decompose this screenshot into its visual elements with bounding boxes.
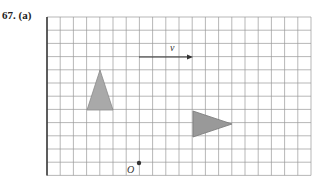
vector-label: v	[170, 42, 175, 53]
origin-label: O	[127, 164, 134, 175]
grid-lines	[47, 17, 311, 175]
triangle-upright	[87, 70, 113, 110]
grid-diagram: v O	[0, 0, 320, 177]
shapes	[87, 70, 232, 137]
origin-dot	[137, 161, 141, 165]
triangle-right-pointing	[193, 111, 232, 137]
